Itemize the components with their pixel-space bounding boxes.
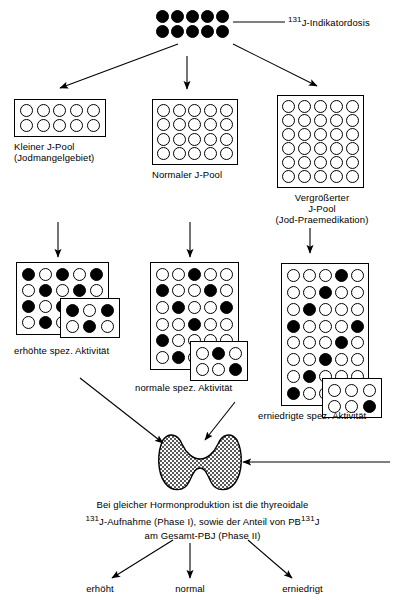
low-activity-empty-dot (287, 336, 300, 349)
dot-cell (301, 301, 317, 318)
normal-activity-inset-filled-dot (212, 347, 225, 360)
low-activity-filled-dot (335, 336, 348, 349)
normal-activity-filled-dot (188, 318, 201, 331)
normal-activity-empty-dot (156, 268, 169, 281)
low-activity-empty-dot (335, 286, 348, 299)
dose-label-superscript: 131 (288, 15, 302, 24)
dot-cell (187, 147, 203, 162)
arrow-to-enlarged-pool (233, 44, 317, 86)
low-activity-empty-dot (287, 269, 300, 282)
normal-pool-empty-dot (157, 118, 170, 131)
dot-cell (68, 118, 85, 133)
low-activity-empty-dot (303, 336, 316, 349)
dot-cell (35, 103, 52, 118)
dot-cell (326, 382, 343, 398)
normal-activity-empty-dot (172, 334, 185, 347)
dot-cell (281, 156, 297, 170)
outcome-increased: erhöht (55, 583, 145, 594)
dot-cell (313, 99, 329, 113)
dot-cell (20, 282, 37, 298)
arrow-to-small-pool (60, 44, 178, 88)
high-activity-inset-box[interactable] (60, 298, 120, 338)
enlarged-pool-empty-dot (298, 156, 311, 169)
dot-cell (349, 335, 365, 352)
dot-cell (99, 318, 116, 334)
dot-cell (317, 301, 333, 318)
indicator-dose-dot (201, 10, 214, 23)
dot-cell (285, 351, 301, 368)
dot-cell (88, 282, 105, 298)
dot-cell (85, 103, 102, 118)
indicator-dose-dot (171, 10, 184, 23)
dot-cell (301, 351, 317, 368)
dot-cell (313, 170, 329, 184)
dot-cell (285, 368, 301, 385)
enlarged-pool-empty-dot (314, 100, 327, 113)
dot-cell (88, 266, 105, 282)
low-activity-inset-empty-dot (345, 384, 358, 397)
dot-cell (317, 267, 333, 284)
dot-cell (35, 118, 52, 133)
high-activity-empty-dot (56, 284, 69, 297)
enlarged-pool-box[interactable] (277, 95, 364, 188)
normal-activity-inset-box[interactable] (190, 341, 248, 381)
low-activity-empty-dot (351, 303, 364, 316)
high-activity-inset-empty-dot (83, 304, 96, 317)
dot-cell (186, 266, 202, 283)
high-activity-filled-dot (39, 316, 52, 329)
dot-cell (37, 282, 54, 298)
dot-cell (219, 283, 235, 300)
dot-cell (285, 284, 301, 301)
dot-cell (172, 132, 188, 147)
low-activity-empty-dot (351, 353, 364, 366)
enlarged-pool-empty-dot (314, 142, 327, 155)
normal-pool-empty-dot (204, 147, 217, 160)
dot-cell (317, 335, 333, 352)
enlarged-pool-empty-dot (346, 114, 359, 127)
dot-cell (297, 127, 313, 141)
dot-cell (203, 266, 219, 283)
enlarged-pool-empty-dot (282, 170, 295, 183)
normal-pool-empty-dot (220, 118, 233, 131)
dot-cell (361, 382, 378, 398)
normal-pool-empty-dot (220, 147, 233, 160)
normal-pool-empty-dot (173, 104, 186, 117)
indicator-dose-dot (216, 25, 229, 38)
high-activity-filled-dot (22, 268, 35, 281)
small-pool-box[interactable] (14, 99, 106, 137)
low-activity-filled-dot (351, 320, 364, 333)
small-pool-empty-dot (53, 119, 66, 132)
normal-activity-empty-dot (204, 318, 217, 331)
dot-cell (154, 333, 170, 350)
dot-cell (227, 345, 244, 361)
dot-cell (99, 302, 116, 318)
normal-activity-empty-dot (220, 268, 233, 281)
dot-cell (344, 127, 360, 141)
dot-cell (156, 132, 172, 147)
indicator-dose-dot (171, 25, 184, 38)
dot-cell (317, 318, 333, 335)
dot-cell (71, 282, 88, 298)
dot-cell (328, 156, 344, 170)
normal-pool-empty-dot (220, 133, 233, 146)
normal-pool-box[interactable] (152, 99, 238, 165)
normal-activity-filled-dot (156, 284, 169, 297)
small-pool-empty-dot (37, 119, 50, 132)
dot-cell (211, 361, 228, 377)
dot-cell (194, 361, 211, 377)
conclusion-line-3: am Gesamt-PBJ (Phase II) (0, 529, 405, 543)
enlarged-pool-empty-dot (346, 100, 359, 113)
normal-pool-empty-dot (220, 104, 233, 117)
high-activity-filled-dot (22, 300, 35, 313)
dot-cell (218, 118, 234, 133)
indicator-dose-dot (156, 25, 169, 38)
dot-cell (285, 335, 301, 352)
dot-cell (37, 266, 54, 282)
normal-activity-empty-dot (156, 318, 169, 331)
dose-label-text: J-Indikatordosis (302, 17, 370, 28)
dot-cell (37, 299, 54, 315)
dot-cell (172, 147, 188, 162)
dot-cell (349, 284, 365, 301)
dot-cell (187, 132, 203, 147)
indicator-dose-dot (216, 10, 229, 23)
